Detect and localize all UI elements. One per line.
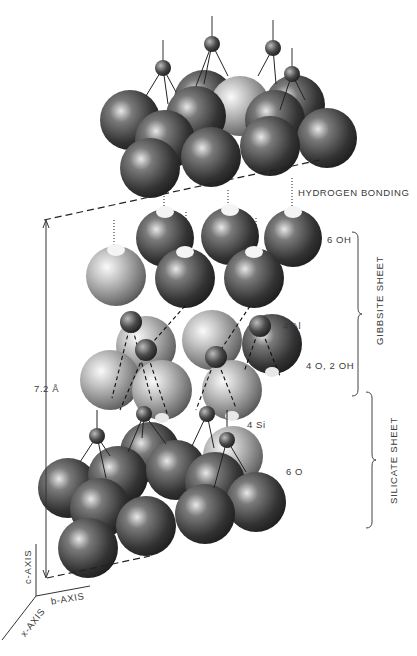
upper-boundary bbox=[44, 160, 320, 220]
silicate-sheet-label: SILICATE SHEET bbox=[388, 417, 399, 504]
spacing-label: 7.2 Å bbox=[34, 383, 59, 394]
six-oh-label: 6 OH bbox=[327, 234, 352, 245]
six-o-label: 6 O bbox=[286, 466, 303, 477]
gibbsite-sheet bbox=[80, 204, 322, 423]
gibbsite-brace bbox=[352, 232, 362, 396]
silicate-brace bbox=[366, 392, 376, 528]
spacing-arrow bbox=[43, 220, 49, 578]
four-al-label: 4 Al bbox=[283, 320, 301, 331]
silicate-sheet bbox=[38, 406, 286, 578]
structure-diagram bbox=[0, 0, 417, 656]
gibbsite-sheet-label: GIBBSITE SHEET bbox=[374, 256, 385, 345]
four-si-label: 4 Si bbox=[247, 419, 266, 430]
hydrogen-bonding-label: HYDROGEN BONDING bbox=[298, 187, 409, 198]
four-o-two-oh-label: 4 O, 2 OH bbox=[306, 360, 354, 371]
c-axis-label: c-AXIS bbox=[22, 550, 33, 584]
upper-layer bbox=[100, 16, 357, 198]
